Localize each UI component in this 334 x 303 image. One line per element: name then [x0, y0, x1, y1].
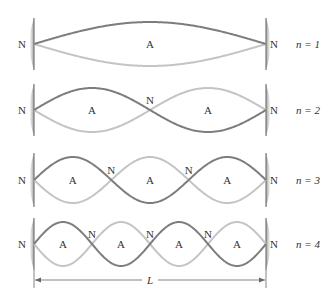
- node-label: N: [146, 228, 154, 240]
- left-wall: [30, 84, 35, 136]
- antinode-label: A: [69, 174, 77, 186]
- harmonic-label: n = 1: [296, 38, 320, 50]
- node-label: N: [270, 238, 278, 250]
- node-label: N: [18, 104, 26, 116]
- harmonic-row-n3: NNNNAAAn = 3: [18, 153, 320, 207]
- harmonic-row-n2: NNNAAn = 2: [18, 84, 320, 136]
- arrow-left-icon: [35, 278, 41, 283]
- antinode-label: A: [175, 238, 183, 250]
- harmonic-label: n = 2: [296, 104, 320, 116]
- antinode-label: A: [233, 238, 241, 250]
- node-label: N: [18, 38, 26, 50]
- antinode-label: A: [117, 238, 125, 250]
- length-dimension: L: [34, 270, 266, 288]
- harmonic-label: n = 3: [296, 174, 320, 186]
- standing-wave-diagram: NNAn = 1NNNAAn = 2NNNNAAAn = 3NNNNNAAAAn…: [0, 0, 334, 303]
- arrow-right-icon: [259, 278, 265, 283]
- node-label: N: [270, 104, 278, 116]
- antinode-label: A: [59, 238, 67, 250]
- node-label: N: [270, 38, 278, 50]
- node-label: N: [18, 238, 26, 250]
- antinode-label: A: [146, 174, 154, 186]
- harmonic-label: n = 4: [296, 238, 320, 250]
- length-label: L: [146, 274, 153, 286]
- antinode-label: A: [146, 38, 154, 50]
- diagram-canvas: NNAn = 1NNNAAn = 2NNNNAAAn = 3NNNNNAAAAn…: [0, 0, 334, 303]
- harmonic-row-n4: NNNNNAAAAn = 4: [18, 218, 320, 270]
- left-wall: [30, 218, 35, 270]
- left-wall: [30, 18, 35, 70]
- harmonic-row-n1: NNAn = 1: [18, 18, 320, 70]
- node-label: N: [88, 228, 96, 240]
- node-label: N: [107, 164, 115, 176]
- node-label: N: [204, 228, 212, 240]
- node-label: N: [18, 174, 26, 186]
- antinode-label: A: [204, 104, 212, 116]
- left-wall: [30, 153, 35, 207]
- antinode-label: A: [223, 174, 231, 186]
- node-label: N: [270, 174, 278, 186]
- antinode-label: A: [88, 104, 96, 116]
- node-label: N: [185, 164, 193, 176]
- node-label: N: [146, 94, 154, 106]
